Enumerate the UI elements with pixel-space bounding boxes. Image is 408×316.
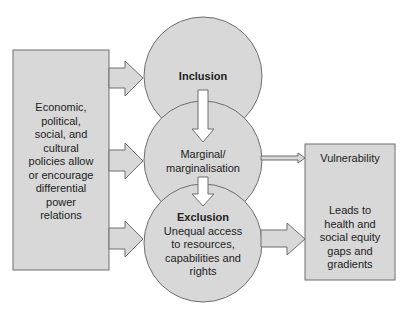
exclusion-title: Exclusion xyxy=(148,211,258,225)
left-box-line: or encourage xyxy=(13,169,109,183)
arrow-to-outcomes-icon xyxy=(261,223,305,255)
outcomes-text: Leads to health and social equity gaps a… xyxy=(305,204,395,272)
left-box-line: policies allow xyxy=(13,155,109,169)
left-box-line: cultural xyxy=(13,142,109,156)
left-box-line: power xyxy=(13,196,109,210)
exclusion-line: Unequal access xyxy=(148,225,258,239)
left-box-line: Economic, xyxy=(13,101,109,115)
marginal-line: marginalisation xyxy=(148,162,258,176)
arrow-to-exclusion-icon xyxy=(109,221,143,257)
exclusion-text: Exclusion Unequal access to resources, c… xyxy=(148,211,258,279)
outcomes-line: gaps and xyxy=(305,245,395,259)
arrow-to-marginal-icon xyxy=(109,143,143,179)
left-box-line: social, and xyxy=(13,128,109,142)
exclusion-line: to resources, xyxy=(148,238,258,252)
vulnerability-label: Vulnerability xyxy=(305,152,395,166)
left-box-line: relations xyxy=(13,209,109,223)
exclusion-line: capabilities and xyxy=(148,252,258,266)
marginal-text: Marginal/ marginalisation xyxy=(148,148,258,175)
arrow-to-vulnerability-icon xyxy=(261,153,305,163)
outcomes-line: gradients xyxy=(305,258,395,272)
exclusion-line: rights xyxy=(148,265,258,279)
inclusion-title: Inclusion xyxy=(153,70,253,84)
left-box-text: Economic, political, social, and cultura… xyxy=(13,101,109,223)
left-box-line: political, xyxy=(13,115,109,129)
outcomes-line: social equity xyxy=(305,231,395,245)
marginal-line: Marginal/ xyxy=(148,148,258,162)
arrow-to-inclusion-icon xyxy=(109,61,143,96)
outcomes-line: health and xyxy=(305,218,395,232)
left-box-line: differential xyxy=(13,182,109,196)
outcomes-line: Leads to xyxy=(305,204,395,218)
